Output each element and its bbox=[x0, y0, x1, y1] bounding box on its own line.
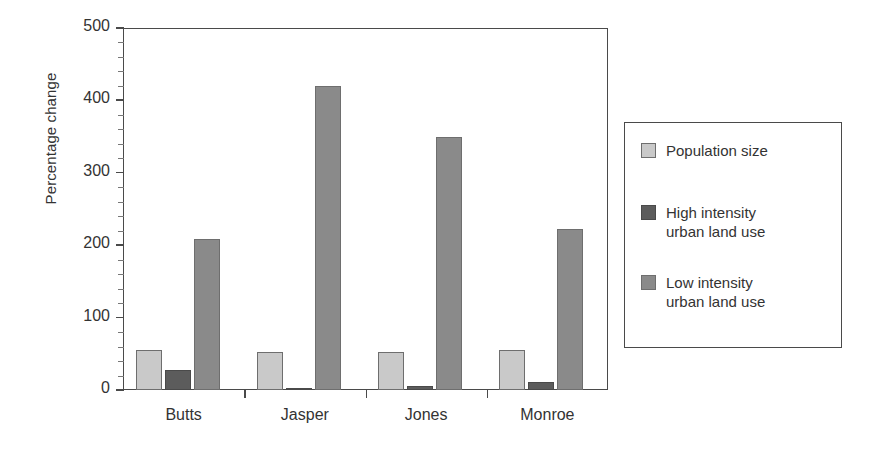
y-minor-tick bbox=[118, 274, 124, 275]
y-tick-mark bbox=[116, 389, 124, 391]
y-axis-title: Percentage change bbox=[42, 29, 59, 249]
bar-chart: Percentage change 0100200300400500 Butts… bbox=[0, 0, 880, 475]
y-tick-mark bbox=[116, 244, 124, 246]
legend-label: Low intensity urban land use bbox=[666, 273, 765, 311]
y-tick-label: 100 bbox=[58, 307, 110, 325]
legend-label: Population size bbox=[666, 141, 768, 160]
y-minor-tick bbox=[118, 187, 124, 188]
y-minor-tick bbox=[118, 231, 124, 232]
bar bbox=[136, 350, 162, 390]
y-minor-tick bbox=[118, 115, 124, 116]
y-tick-mark bbox=[116, 172, 124, 174]
y-minor-tick bbox=[118, 347, 124, 348]
legend-swatch-icon bbox=[641, 275, 656, 290]
x-group-label: Monroe bbox=[487, 406, 608, 424]
y-tick-mark bbox=[116, 27, 124, 29]
legend-item[interactable]: Population size bbox=[641, 141, 768, 160]
bar bbox=[315, 86, 341, 390]
chart-legend: Population sizeHigh intensity urban land… bbox=[624, 122, 842, 348]
y-minor-tick bbox=[118, 303, 124, 304]
y-minor-tick bbox=[118, 332, 124, 333]
legend-swatch-icon bbox=[641, 205, 656, 220]
y-tick-label: 0 bbox=[58, 379, 110, 397]
y-minor-tick bbox=[118, 42, 124, 43]
bar bbox=[257, 352, 283, 390]
bar bbox=[165, 370, 191, 390]
y-minor-tick bbox=[118, 158, 124, 159]
y-minor-tick bbox=[118, 289, 124, 290]
y-tick-mark bbox=[116, 99, 124, 101]
bar bbox=[194, 239, 220, 390]
y-minor-tick bbox=[118, 71, 124, 72]
y-minor-tick bbox=[118, 216, 124, 217]
y-minor-tick bbox=[118, 361, 124, 362]
y-minor-tick bbox=[118, 202, 124, 203]
bar bbox=[286, 388, 312, 391]
x-group-label: Butts bbox=[123, 406, 244, 424]
y-tick-label: 300 bbox=[58, 162, 110, 180]
x-group-label: Jasper bbox=[244, 406, 365, 424]
y-minor-tick bbox=[118, 376, 124, 377]
y-minor-tick bbox=[118, 86, 124, 87]
x-group-label: Jones bbox=[366, 406, 487, 424]
y-tick-mark bbox=[116, 317, 124, 319]
bar bbox=[528, 382, 554, 390]
y-minor-tick bbox=[118, 260, 124, 261]
legend-item[interactable]: Low intensity urban land use bbox=[641, 273, 765, 311]
bar bbox=[407, 386, 433, 390]
y-tick-label: 200 bbox=[58, 234, 110, 252]
x-tick-mark bbox=[366, 390, 368, 398]
x-tick-mark bbox=[487, 390, 489, 398]
bar bbox=[378, 352, 404, 390]
bar bbox=[499, 350, 525, 390]
bar bbox=[557, 229, 583, 390]
y-minor-tick bbox=[118, 57, 124, 58]
legend-label: High intensity urban land use bbox=[666, 203, 765, 241]
y-minor-tick bbox=[118, 144, 124, 145]
legend-swatch-icon bbox=[641, 143, 656, 158]
x-tick-mark bbox=[244, 390, 246, 398]
legend-item[interactable]: High intensity urban land use bbox=[641, 203, 765, 241]
y-tick-label: 400 bbox=[58, 89, 110, 107]
bar bbox=[436, 137, 462, 390]
y-tick-label: 500 bbox=[58, 17, 110, 35]
y-minor-tick bbox=[118, 129, 124, 130]
